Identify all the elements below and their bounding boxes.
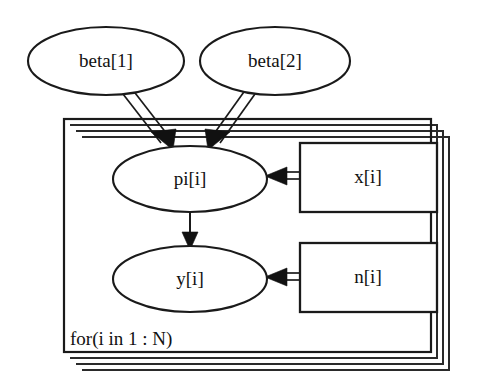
graphical-model-svg: beta[1] beta[2] pi[i] y[i] x[i] n[i] for <box>0 0 501 392</box>
edge-x-to-pi[interactable] <box>265 167 300 185</box>
edge-pi-to-y[interactable] <box>182 212 198 250</box>
node-beta1[interactable]: beta[1] <box>28 27 184 95</box>
node-beta1-label: beta[1] <box>79 50 133 71</box>
edge-n-to-y-arrowhead <box>265 268 287 286</box>
node-pi[interactable]: pi[i] <box>113 146 267 212</box>
node-x[interactable]: x[i] <box>300 143 437 212</box>
node-y[interactable]: y[i] <box>113 246 267 312</box>
plate-label: for(i in 1 : N) <box>70 328 172 350</box>
node-beta2-label: beta[2] <box>248 50 302 71</box>
node-beta2[interactable]: beta[2] <box>200 27 350 95</box>
node-y-label: y[i] <box>176 268 203 289</box>
diagram-canvas: beta[1] beta[2] pi[i] y[i] x[i] n[i] for <box>0 0 501 392</box>
node-pi-label: pi[i] <box>174 168 207 189</box>
node-x-label: x[i] <box>354 166 381 187</box>
node-n-label: n[i] <box>354 266 381 287</box>
edge-n-to-y[interactable] <box>265 268 300 286</box>
edge-x-to-pi-arrowhead <box>265 167 287 185</box>
node-n[interactable]: n[i] <box>300 243 437 312</box>
